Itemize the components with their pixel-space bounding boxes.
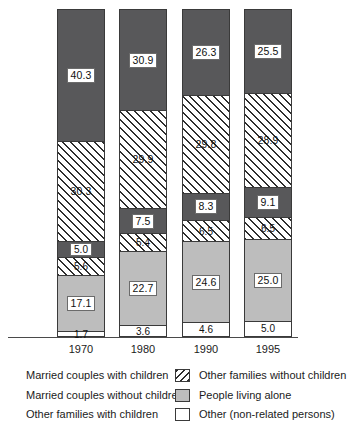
legend-label: Married couples with children xyxy=(26,369,168,382)
segment-value-label: 26.3 xyxy=(192,45,221,60)
x-tick-1980: 1980 xyxy=(113,343,173,355)
legend-column-left: Married couples with childrenMarried cou… xyxy=(2,366,172,425)
segment-value-label: 29.9 xyxy=(133,154,154,165)
segment-value-label: 30.3 xyxy=(71,186,92,197)
bar-segment: 22.7 xyxy=(119,251,167,325)
legend-swatch-gray xyxy=(175,389,190,402)
legend-item: Other families without children xyxy=(175,366,353,386)
segment-value-label: 4.6 xyxy=(196,324,216,335)
bar-segment: 5.4 xyxy=(119,233,167,251)
segment-value-label: 25.0 xyxy=(254,273,283,288)
legend-label: Other (non-related persons) xyxy=(199,408,335,421)
segment-value-label: 7.5 xyxy=(132,214,155,229)
bar-segment: 30.3 xyxy=(57,141,105,240)
legend-label: Other families with children xyxy=(26,408,158,421)
bar-segment: 5.0 xyxy=(57,241,105,257)
plot-area: 40.330.35.05.617.11.730.929.97.55.422.73… xyxy=(0,0,353,340)
bar-1990: 26.329.88.36.524.64.6 xyxy=(182,9,230,337)
segment-value-label: 25.5 xyxy=(254,44,283,59)
bar-1970: 40.330.35.05.617.11.7 xyxy=(57,9,105,337)
x-tick-1970: 1970 xyxy=(51,343,111,355)
x-axis-line xyxy=(8,337,298,338)
bar-segment: 29.8 xyxy=(182,95,230,193)
legend-item: Married couples without children xyxy=(2,386,172,406)
segment-value-label: 3.6 xyxy=(133,326,153,337)
legend-item: Married couples with children xyxy=(2,366,172,386)
segment-value-label: 6.5 xyxy=(258,223,278,234)
segment-value-label: 24.6 xyxy=(192,275,221,290)
bar-segment: 26.3 xyxy=(182,9,230,95)
x-tick-1995: 1995 xyxy=(238,343,298,355)
segment-value-label: 1.7 xyxy=(71,329,91,340)
legend-item: People living alone xyxy=(175,386,353,406)
segment-value-label: 5.0 xyxy=(70,243,92,256)
segment-value-label: 29.8 xyxy=(196,139,217,150)
segment-value-label: 40.3 xyxy=(67,68,96,83)
segment-value-label: 6.5 xyxy=(196,226,216,237)
bar-segment: 24.6 xyxy=(182,241,230,322)
bar-segment: 28.9 xyxy=(244,93,292,188)
legend-swatch-hatch xyxy=(175,369,190,382)
legend-item: Other families with children xyxy=(2,405,172,425)
legend-column-right: Other families without childrenPeople li… xyxy=(175,366,353,425)
legend-label: People living alone xyxy=(199,389,291,402)
bar-segment: 40.3 xyxy=(57,9,105,141)
bar-segment: 7.5 xyxy=(119,208,167,233)
stacked-bar-chart: 40.330.35.05.617.11.730.929.97.55.422.73… xyxy=(0,0,353,426)
bar-segment: 25.5 xyxy=(244,9,292,93)
bar-segment: 8.3 xyxy=(182,193,230,220)
segment-value-label: 17.1 xyxy=(67,296,96,311)
segment-value-label: 22.7 xyxy=(129,281,158,296)
legend-item: Other (non-related persons) xyxy=(175,405,353,425)
bar-segment: 5.6 xyxy=(57,257,105,275)
segment-value-label: 8.3 xyxy=(195,199,218,214)
bar-1980: 30.929.97.55.422.73.6 xyxy=(119,9,167,337)
legend-label: Married couples without children xyxy=(26,389,184,402)
bar-segment: 17.1 xyxy=(57,275,105,331)
bar-segment: 25.0 xyxy=(244,239,292,321)
bar-segment: 9.1 xyxy=(244,187,292,217)
bar-segment: 6.5 xyxy=(182,220,230,241)
legend-label: Other families without children xyxy=(199,369,346,382)
x-tick-1990: 1990 xyxy=(176,343,236,355)
chart-legend: Married couples with childrenMarried cou… xyxy=(0,366,353,426)
bar-segment: 6.5 xyxy=(244,217,292,238)
bar-segment: 5.0 xyxy=(244,321,292,337)
segment-value-label: 5.4 xyxy=(133,237,153,248)
segment-value-label: 28.9 xyxy=(258,135,279,146)
bar-segment: 29.9 xyxy=(119,110,167,208)
segment-value-label: 5.0 xyxy=(258,323,278,334)
bar-segment: 4.6 xyxy=(182,322,230,337)
segment-value-label: 30.9 xyxy=(129,53,158,68)
bar-segment: 3.6 xyxy=(119,325,167,337)
bar-1995: 25.528.99.16.525.05.0 xyxy=(244,9,292,337)
bar-segment: 30.9 xyxy=(119,9,167,110)
segment-value-label: 9.1 xyxy=(257,195,280,210)
legend-swatch-white xyxy=(175,408,190,421)
segment-value-label: 5.6 xyxy=(71,261,91,272)
